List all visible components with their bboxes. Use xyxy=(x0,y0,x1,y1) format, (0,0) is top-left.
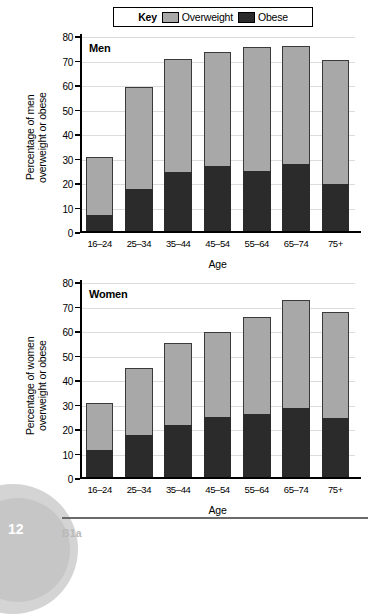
x-axis-tick-label: 75+ xyxy=(316,484,355,495)
x-axis-tick-label: 25–34 xyxy=(119,484,158,495)
bar-stack xyxy=(204,332,232,479)
series-title-women: Women xyxy=(89,288,128,300)
x-axis-tick-label: 16–24 xyxy=(80,238,119,249)
y-axis-tick-label: 70 xyxy=(62,302,73,313)
y-axis-tick-label: 60 xyxy=(62,327,73,338)
bar-stack xyxy=(243,317,271,479)
y-axis-tick-label: 40 xyxy=(62,376,73,387)
bar-stack xyxy=(322,60,350,233)
x-axis-tick-label: 16–24 xyxy=(80,484,119,495)
y-axis-title-line: overweight or obese xyxy=(36,50,48,225)
bar-segment-obese xyxy=(322,418,350,479)
bar-stack xyxy=(86,157,114,233)
chart-women: Percentage of womenoverweight or obese 0… xyxy=(0,276,372,526)
y-axis-line-men xyxy=(80,34,82,233)
bar-stack xyxy=(164,59,192,233)
bar-segment-obese xyxy=(204,166,232,233)
x-axis-tick-label: 25–34 xyxy=(119,238,158,249)
x-axis-tick-label: 35–44 xyxy=(159,484,198,495)
y-axis-tick-label: 80 xyxy=(62,32,73,43)
bar-stack xyxy=(86,403,114,479)
y-axis-tick-label: 0 xyxy=(68,228,73,239)
bar-segment-obese xyxy=(125,189,153,233)
y-axis-title-women: Percentage of womenoverweight or obese xyxy=(24,296,50,476)
y-axis-tick-label: 60 xyxy=(62,81,73,92)
x-axis-tick-label: 35–44 xyxy=(159,238,198,249)
legend-label-overweight: Overweight xyxy=(182,11,233,23)
x-axis-tick-label: 75+ xyxy=(316,238,355,249)
bar-segment-obese xyxy=(125,435,153,479)
y-axis-tick-label: 10 xyxy=(62,203,73,214)
x-axis-title-men: Age xyxy=(80,258,355,270)
x-axis-line-women xyxy=(80,477,361,479)
y-axis-tick-label: 50 xyxy=(62,105,73,116)
y-axis-title-line: Percentage of women xyxy=(24,296,36,476)
bar-segment-obese xyxy=(204,417,232,479)
x-axis-title-women: Age xyxy=(80,504,355,516)
y-axis-tick-label: 80 xyxy=(62,278,73,289)
x-axis-tick-label: 45–54 xyxy=(198,484,237,495)
x-axis-tick-label: 55–64 xyxy=(237,484,276,495)
y-axis-title-men: Percentage of menoverweight or obese xyxy=(24,50,50,225)
series-title-men: Men xyxy=(89,42,110,54)
bar-segment-obese xyxy=(86,450,114,479)
y-axis-tick-label: 30 xyxy=(62,154,73,165)
bar-stack xyxy=(125,87,153,233)
legend-entry-overweight: Overweight xyxy=(162,11,233,23)
x-axis-tick-label: 65–74 xyxy=(276,484,315,495)
chart-men: Percentage of menoverweight or obese 010… xyxy=(0,30,372,270)
legend-swatch-overweight-icon xyxy=(162,12,179,23)
chart-legend: Key Overweight Obese xyxy=(113,7,313,27)
bar-segment-obese xyxy=(322,184,350,233)
y-axis-tick-label: 30 xyxy=(62,400,73,411)
legend-key-label: Key xyxy=(138,11,157,23)
y-axis-tick-label: 0 xyxy=(68,474,73,485)
legend-swatch-obese-icon xyxy=(238,12,255,23)
bar-stack xyxy=(164,343,192,479)
footer-code: B1a xyxy=(62,527,82,539)
bar-stack xyxy=(322,312,350,479)
plot-area-women: 0102030405060708016–2425–3435–4445–5455–… xyxy=(80,283,355,479)
y-axis-tick-label: 40 xyxy=(62,130,73,141)
x-axis-tick-label: 55–64 xyxy=(237,238,276,249)
bar-segment-obese xyxy=(164,172,192,233)
bar-stack xyxy=(204,52,232,233)
bar-segment-obese xyxy=(164,425,192,479)
bar-stack xyxy=(125,368,153,479)
bar-stack xyxy=(282,300,310,479)
bar-segment-obese xyxy=(243,171,271,233)
bar-segment-obese xyxy=(282,408,310,479)
legend-entry-obese: Obese xyxy=(238,11,288,23)
plot-area-men: 0102030405060708016–2425–3435–4445–5455–… xyxy=(80,37,355,233)
y-axis-tick-label: 10 xyxy=(62,449,73,460)
bar-stack xyxy=(282,46,310,233)
footer-divider xyxy=(62,517,368,519)
bar-segment-obese xyxy=(243,414,271,479)
bar-segment-obese xyxy=(282,164,310,233)
gridline xyxy=(80,283,355,284)
gridline xyxy=(80,308,355,309)
legend-label-obese: Obese xyxy=(258,11,288,23)
y-axis-line-women xyxy=(80,280,82,479)
y-axis-tick-label: 20 xyxy=(62,425,73,436)
y-axis-tick-label: 70 xyxy=(62,56,73,67)
gridline xyxy=(80,37,355,38)
y-axis-title-line: overweight or obese xyxy=(36,296,48,476)
x-axis-line-men xyxy=(80,231,361,233)
y-axis-title-line: Percentage of men xyxy=(24,50,36,225)
y-axis-tick-label: 50 xyxy=(62,351,73,362)
page-number: 12 xyxy=(8,521,24,537)
x-axis-tick-label: 45–54 xyxy=(198,238,237,249)
bar-stack xyxy=(243,47,271,233)
x-axis-tick-label: 65–74 xyxy=(276,238,315,249)
y-axis-tick-label: 20 xyxy=(62,179,73,190)
bar-segment-obese xyxy=(86,215,114,233)
